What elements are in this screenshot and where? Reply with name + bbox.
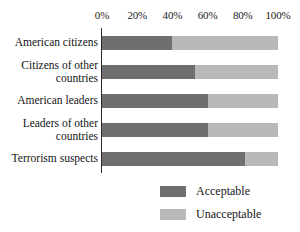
x-tick-label: 40% [163,9,183,22]
x-tick-label: 80% [233,9,253,22]
x-tick-label: 60% [198,9,218,22]
category-label: Leaders of other countries [23,117,98,142]
x-tick-label: 100% [266,9,291,22]
bar-segment-acceptable [102,152,245,166]
bar-segment-acceptable [102,123,208,137]
x-axis-tick-labels: 0%20%40%60%80%100% [0,9,300,23]
bar-segment-acceptable [102,65,195,79]
bar-segment-acceptable [102,94,208,108]
legend-label: Acceptable [196,183,250,200]
bar-row [102,65,278,79]
legend-swatch-icon [160,186,186,197]
plot-area [102,28,278,173]
bar-segment-unacceptable [208,94,278,108]
category-label: American leaders [17,94,98,107]
category-label: Citizens of other countries [21,59,98,84]
x-tick-label: 20% [127,9,147,22]
bar-segment-unacceptable [172,36,278,50]
bar-row [102,123,278,137]
bar-segment-unacceptable [208,123,278,137]
category-label: American citizens [15,36,98,49]
stacked-bar-chart: 0%20%40%60%80%100% AcceptableUnacceptabl… [0,0,300,232]
category-label: Terrorism suspects [12,152,98,165]
bar-row [102,152,278,166]
bar-segment-acceptable [102,36,172,50]
bar-segment-unacceptable [195,65,278,79]
x-tick-label: 0% [95,9,109,22]
legend-label: Unacceptable [196,206,261,223]
bar-segment-unacceptable [245,152,278,166]
bar-row [102,36,278,50]
legend-swatch-icon [160,209,186,220]
bar-row [102,94,278,108]
